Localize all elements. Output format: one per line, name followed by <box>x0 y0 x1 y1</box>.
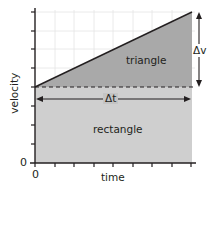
y-axis-label: velocity <box>9 73 20 114</box>
triangle-label: triangle <box>126 55 166 66</box>
y-origin-label: 0 <box>20 157 27 168</box>
delta-v-label: Δv <box>193 44 206 57</box>
delta-t-label: Δt <box>103 93 118 104</box>
rectangle-label: rectangle <box>93 124 143 135</box>
x-origin-label: 0 <box>32 169 39 180</box>
x-axis-label: time <box>101 172 125 183</box>
